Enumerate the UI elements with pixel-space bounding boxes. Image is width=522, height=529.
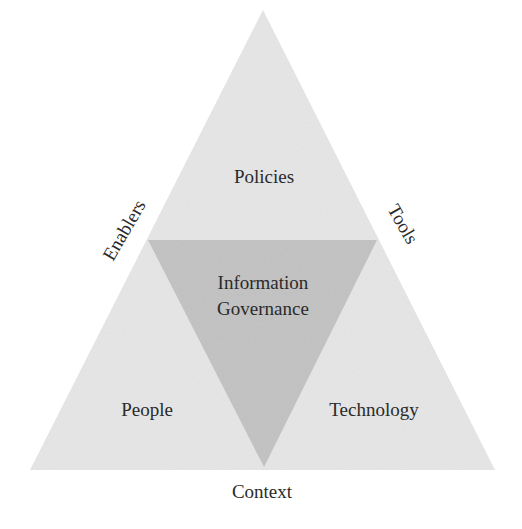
center-label-line1: Information (217, 270, 309, 296)
corner-label-policies: Policies (234, 167, 294, 186)
governance-triangle-diagram (0, 0, 522, 529)
center-label-line2: Governance (217, 296, 309, 322)
side-label-context: Context (232, 482, 292, 501)
center-label: Information Governance (217, 270, 309, 322)
corner-label-technology: Technology (329, 400, 418, 419)
corner-label-people: People (121, 400, 173, 419)
